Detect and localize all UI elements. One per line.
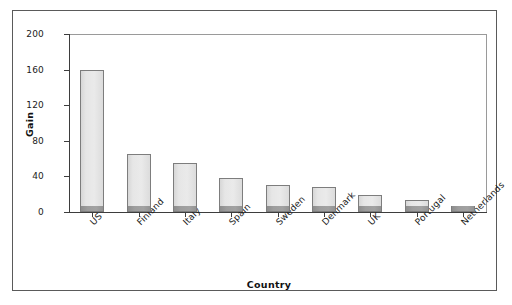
bar-base-segment bbox=[313, 206, 335, 211]
bar[interactable] bbox=[219, 178, 243, 212]
bar[interactable] bbox=[173, 163, 197, 212]
bar-base-segment bbox=[128, 206, 150, 211]
y-axis-tick-mark bbox=[64, 176, 70, 177]
y-axis-tick-label: 40 bbox=[32, 172, 44, 181]
bar[interactable] bbox=[127, 154, 151, 212]
bar-base-segment bbox=[174, 206, 196, 211]
bar-base-segment bbox=[81, 206, 103, 211]
bar[interactable] bbox=[312, 187, 336, 212]
bar-group[interactable] bbox=[312, 187, 336, 212]
y-axis-tick-mark bbox=[64, 70, 70, 71]
bar-group[interactable] bbox=[358, 195, 382, 212]
y-axis-tick-mark bbox=[64, 212, 70, 213]
bar-group[interactable] bbox=[127, 154, 151, 212]
y-axis-line bbox=[69, 34, 70, 213]
y-axis-tick-mark bbox=[64, 105, 70, 106]
bar[interactable] bbox=[451, 206, 475, 212]
x-axis-title-text: Country bbox=[247, 279, 292, 290]
bar-group[interactable] bbox=[219, 178, 243, 212]
bar[interactable] bbox=[358, 195, 382, 212]
bar[interactable] bbox=[405, 200, 429, 212]
y-axis-title: Gain bbox=[24, 112, 35, 137]
plot-right-spine bbox=[486, 34, 487, 213]
bar-base-segment bbox=[406, 206, 428, 211]
bar-group[interactable] bbox=[173, 163, 197, 212]
bar-group[interactable] bbox=[266, 185, 290, 212]
y-axis-tick-label: 80 bbox=[32, 137, 44, 146]
x-axis-title: Country bbox=[13, 279, 512, 290]
bar-base-segment bbox=[220, 206, 242, 211]
y-axis-tick-mark bbox=[64, 141, 70, 142]
bar-group[interactable] bbox=[80, 70, 104, 212]
bar-group[interactable] bbox=[451, 206, 475, 212]
figure-frame: 04080120160200 USFinlandItalySpainSweden… bbox=[12, 10, 497, 291]
plot-top-spine bbox=[69, 34, 487, 35]
y-axis-tick-label: 200 bbox=[26, 30, 44, 39]
bar-group[interactable] bbox=[405, 200, 429, 212]
bar-base-segment bbox=[452, 206, 474, 211]
x-axis-tick-label: UK bbox=[366, 211, 382, 227]
chart-figure: 04080120160200 USFinlandItalySpainSweden… bbox=[0, 0, 512, 305]
y-axis-tick-label: 0 bbox=[38, 208, 44, 217]
bar-base-segment bbox=[359, 206, 381, 211]
y-axis-tick-label: 160 bbox=[26, 66, 44, 75]
x-axis-tick-label: US bbox=[88, 211, 104, 227]
bar-base-segment bbox=[267, 206, 289, 211]
y-axis-tick-label: 120 bbox=[26, 101, 44, 110]
bar[interactable] bbox=[80, 70, 104, 212]
bar[interactable] bbox=[266, 185, 290, 212]
y-axis-tick-mark bbox=[64, 34, 70, 35]
